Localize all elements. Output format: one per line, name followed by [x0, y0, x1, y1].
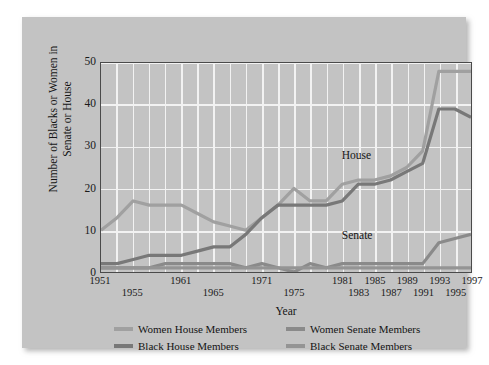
x-tick-label: 1997: [462, 275, 483, 286]
x-axis-ticks: 1951196119711981198519891993199719551965…: [100, 273, 472, 303]
x-axis-title: Year: [100, 305, 472, 317]
x-tick-label: 1991: [413, 287, 434, 298]
legend-label: Women Senate Members: [310, 323, 420, 335]
x-tick-label: 1983: [348, 287, 369, 298]
legend-entry: Women House Members: [114, 323, 286, 335]
x-tick-label: 1981: [332, 275, 353, 286]
y-axis-title: Number of Blacks or Women in Senate or H…: [46, 34, 74, 204]
plot-area: House Senate: [100, 62, 472, 273]
legend-label: Black House Members: [138, 340, 239, 352]
senate-annotation: Senate: [342, 229, 373, 241]
x-tick-label: 1995: [445, 287, 466, 298]
x-tick-label: 1971: [251, 275, 272, 286]
y-tick-label: 10: [70, 225, 96, 236]
legend-label: Women House Members: [138, 323, 247, 335]
x-tick-label: 1965: [203, 287, 224, 298]
series-line: [101, 109, 471, 264]
x-tick-label: 1985: [364, 275, 385, 286]
house-annotation: House: [342, 149, 371, 161]
chart-legend: Women House MembersWomen Senate MembersB…: [114, 320, 444, 354]
figure-root: 01020304050 Number of Blacks or Women in…: [0, 0, 489, 365]
legend-swatch-icon: [114, 327, 133, 331]
legend-entry: Black House Members: [114, 340, 286, 352]
legend-swatch-icon: [114, 344, 133, 348]
x-tick-label: 1989: [397, 275, 418, 286]
figure-panel: 01020304050 Number of Blacks or Women in…: [22, 17, 466, 348]
legend-swatch-icon: [286, 344, 305, 348]
legend-swatch-icon: [286, 327, 305, 331]
x-tick-label: 1951: [90, 275, 111, 286]
x-tick-label: 1961: [170, 275, 191, 286]
legend-label: Black Senate Members: [310, 340, 412, 352]
x-tick-label: 1975: [284, 287, 305, 298]
legend-entry: Black Senate Members: [286, 340, 444, 352]
legend-entry: Women Senate Members: [286, 323, 444, 335]
series-lines: [101, 63, 471, 272]
x-tick-label: 1955: [122, 287, 143, 298]
x-tick-label: 1993: [429, 275, 450, 286]
x-tick-label: 1987: [381, 287, 402, 298]
